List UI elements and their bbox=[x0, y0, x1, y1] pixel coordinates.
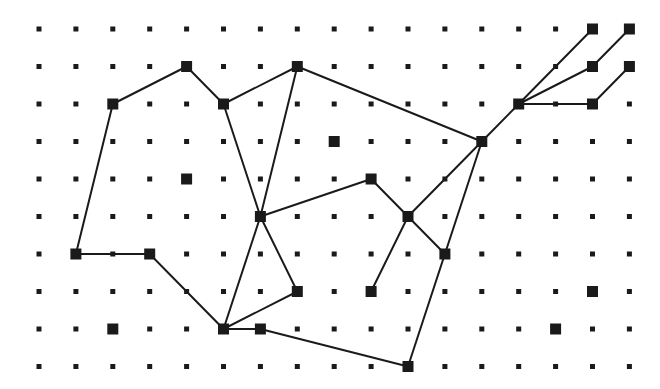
grid-dot bbox=[590, 327, 595, 332]
grid-dot bbox=[332, 27, 337, 32]
graph-node bbox=[181, 61, 192, 72]
grid-dot bbox=[479, 214, 484, 219]
grid-dot bbox=[332, 177, 337, 182]
grid-dot bbox=[110, 289, 115, 294]
graph-edge bbox=[408, 217, 445, 255]
grid-dot bbox=[369, 102, 374, 107]
graph-node bbox=[587, 24, 598, 35]
grid-dot bbox=[369, 139, 374, 144]
grid-dot bbox=[73, 177, 78, 182]
graph-edge bbox=[445, 142, 482, 255]
grid-dot bbox=[442, 289, 447, 294]
graph-edge bbox=[371, 217, 408, 292]
grid-dot bbox=[332, 327, 337, 332]
grid-dot bbox=[37, 364, 42, 369]
graph-node bbox=[181, 174, 192, 185]
grid-dot bbox=[37, 27, 42, 32]
grid-dot bbox=[627, 252, 632, 257]
grid-dot bbox=[221, 27, 226, 32]
graph-node bbox=[550, 324, 561, 335]
graph-edge bbox=[371, 179, 408, 217]
graph-edge bbox=[260, 179, 371, 217]
graph-node bbox=[624, 24, 635, 35]
graph-node bbox=[107, 99, 118, 110]
grid-dot bbox=[184, 252, 189, 257]
grid-dot bbox=[406, 289, 411, 294]
grid-dot bbox=[295, 177, 300, 182]
graph-edge bbox=[224, 67, 298, 105]
grid-dot bbox=[442, 327, 447, 332]
grid-dot bbox=[479, 252, 484, 257]
graph-edge bbox=[593, 67, 630, 105]
grid-dot bbox=[37, 139, 42, 144]
grid-dot bbox=[37, 177, 42, 182]
grid-dot bbox=[221, 64, 226, 69]
graph-node bbox=[70, 249, 81, 260]
graph-node bbox=[587, 286, 598, 297]
grid-dot bbox=[73, 214, 78, 219]
grid-dot bbox=[553, 289, 558, 294]
grid-dot bbox=[553, 214, 558, 219]
graph-node bbox=[144, 249, 155, 260]
graph-node bbox=[587, 99, 598, 110]
grid-dot bbox=[73, 139, 78, 144]
graph-edge bbox=[224, 104, 261, 217]
grid-dot bbox=[332, 289, 337, 294]
graph-edge bbox=[482, 104, 519, 142]
grid-dot bbox=[516, 177, 521, 182]
grid-dot bbox=[221, 252, 226, 257]
grid-dot bbox=[147, 289, 152, 294]
grid-dot bbox=[110, 214, 115, 219]
grid-dot bbox=[627, 139, 632, 144]
grid-dot bbox=[332, 252, 337, 257]
grid-dot bbox=[516, 139, 521, 144]
grid-dot bbox=[369, 27, 374, 32]
graph-node bbox=[255, 211, 266, 222]
graph-edge bbox=[408, 142, 482, 217]
grid-dot bbox=[295, 27, 300, 32]
grid-dot bbox=[184, 139, 189, 144]
grid-dot bbox=[184, 327, 189, 332]
grid-dot bbox=[258, 102, 263, 107]
grid-dot bbox=[147, 327, 152, 332]
graph-node bbox=[624, 61, 635, 72]
graph-node bbox=[439, 249, 450, 260]
graph-node bbox=[513, 99, 524, 110]
grid-dot bbox=[516, 64, 521, 69]
grid-dot bbox=[627, 327, 632, 332]
grid-dot bbox=[73, 364, 78, 369]
grid-dot bbox=[37, 327, 42, 332]
grid-dot bbox=[295, 327, 300, 332]
grid-dot bbox=[332, 214, 337, 219]
grid-dot bbox=[406, 139, 411, 144]
graph-edge bbox=[113, 67, 187, 105]
grid-dot bbox=[110, 139, 115, 144]
grid-dot bbox=[221, 177, 226, 182]
grid-dot bbox=[147, 64, 152, 69]
grid-dot bbox=[479, 327, 484, 332]
graph-node bbox=[292, 61, 303, 72]
grid-dot bbox=[295, 102, 300, 107]
grid-dot bbox=[590, 364, 595, 369]
grid-dot bbox=[73, 102, 78, 107]
grid-dot bbox=[516, 364, 521, 369]
graph-edge bbox=[76, 104, 113, 254]
grid-dot bbox=[332, 364, 337, 369]
grid-dot bbox=[37, 102, 42, 107]
graph-node bbox=[218, 324, 229, 335]
grid-dot bbox=[110, 364, 115, 369]
graph-node bbox=[476, 136, 487, 147]
grid-dot bbox=[442, 139, 447, 144]
grid-dot bbox=[258, 27, 263, 32]
grid-dot bbox=[479, 102, 484, 107]
grid-dot bbox=[369, 252, 374, 257]
grid-dot bbox=[553, 27, 558, 32]
grid-dot bbox=[73, 27, 78, 32]
graph-node bbox=[403, 361, 414, 372]
graph-edge bbox=[408, 254, 445, 367]
grid-dot bbox=[258, 64, 263, 69]
grid-dot bbox=[590, 252, 595, 257]
grid-dot bbox=[442, 27, 447, 32]
grid-dot bbox=[37, 289, 42, 294]
grid-dot bbox=[479, 27, 484, 32]
